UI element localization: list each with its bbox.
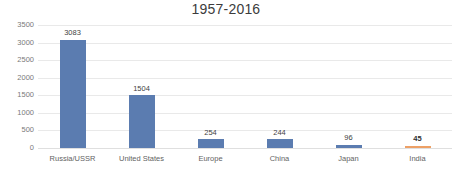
bar-value-label: 244	[273, 129, 286, 137]
bar-value-label: 45	[413, 135, 421, 143]
y-axis-tick-label: 0	[0, 144, 34, 152]
bar-value-label: 3083	[64, 29, 81, 37]
bar-group[interactable]: 1504	[107, 25, 176, 148]
bar-chart: 1957-2016 0500100015002000250030003500 3…	[0, 0, 452, 171]
bar-group[interactable]: 45	[383, 25, 452, 148]
bar-value-label: 1504	[133, 85, 150, 93]
y-axis: 0500100015002000250030003500	[0, 25, 34, 148]
bars-layer: 308315042542449645	[38, 25, 452, 148]
x-axis-category-label: China	[245, 155, 314, 163]
x-axis-category-label: Japan	[314, 155, 383, 163]
bar-group[interactable]: 96	[314, 25, 383, 148]
bar-group[interactable]: 3083	[38, 25, 107, 148]
y-axis-tick-label: 2000	[0, 74, 34, 82]
bar[interactable]	[129, 95, 155, 148]
bar[interactable]	[405, 146, 431, 149]
bar[interactable]	[60, 40, 86, 148]
gridline-0	[38, 148, 452, 149]
x-axis-category-label: United States	[107, 155, 176, 163]
bar[interactable]	[198, 139, 224, 148]
bar-group[interactable]: 254	[176, 25, 245, 148]
y-axis-tick-label: 1500	[0, 91, 34, 99]
chart-title: 1957-2016	[0, 1, 452, 17]
x-axis-category-label: Europe	[176, 155, 245, 163]
bar[interactable]	[267, 139, 293, 148]
y-axis-tick-label: 3500	[0, 21, 34, 29]
bar[interactable]	[336, 145, 362, 148]
y-axis-tick-label: 1000	[0, 109, 34, 117]
bar-group[interactable]: 244	[245, 25, 314, 148]
x-axis: Russia/USSRUnited StatesEuropeChinaJapan…	[38, 155, 452, 169]
x-axis-category-label: India	[383, 155, 452, 163]
bar-value-label: 96	[344, 134, 352, 142]
bar-value-label: 254	[204, 129, 217, 137]
x-axis-category-label: Russia/USSR	[38, 155, 107, 163]
y-axis-tick-label: 2500	[0, 56, 34, 64]
y-axis-tick-label: 500	[0, 126, 34, 134]
y-axis-tick-label: 3000	[0, 39, 34, 47]
